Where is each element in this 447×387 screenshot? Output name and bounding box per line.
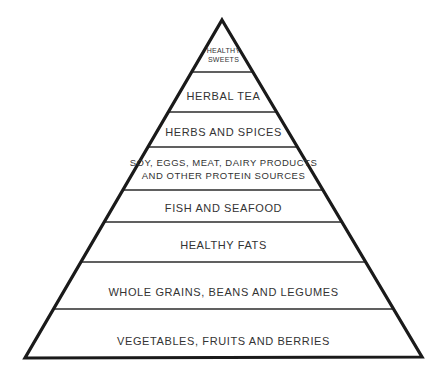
pyramid-divider-lines [54, 72, 394, 309]
pyramid-shape [0, 0, 447, 387]
pyramid-outline [25, 20, 422, 358]
food-pyramid-diagram: Healthy SweetsHerbal TeaHerbs and Spices… [0, 0, 447, 387]
